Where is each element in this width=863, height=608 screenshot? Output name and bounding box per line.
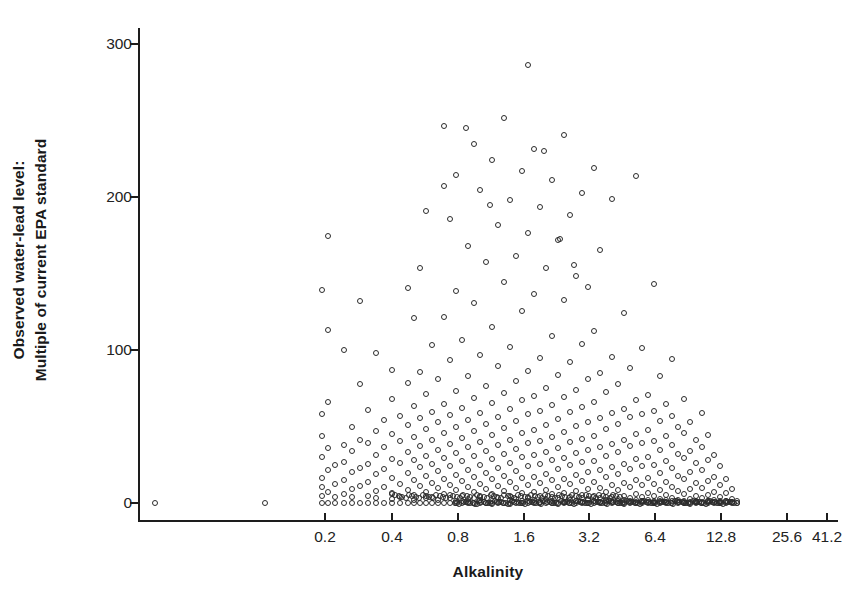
x-tick-label: 1.6	[513, 528, 535, 546]
y-tick-mark	[130, 43, 138, 45]
x-tick-label: 3.2	[578, 528, 600, 546]
x-tick-mark	[588, 513, 590, 521]
x-tick-mark	[826, 513, 828, 521]
x-tick-mark	[324, 513, 326, 521]
plot-area	[0, 0, 863, 608]
x-tick-label: 0.8	[447, 528, 469, 546]
x-tick-label: 0.2	[314, 528, 336, 546]
y-tick-mark	[130, 349, 138, 351]
y-tick-mark	[130, 196, 138, 198]
x-tick-mark	[457, 513, 459, 521]
scatter-plot-figure: Observed water-lead level: Multiple of c…	[0, 0, 863, 608]
x-axis-label: Alkalinity	[138, 563, 838, 581]
x-tick-mark	[654, 513, 656, 521]
x-axis-line	[138, 520, 838, 522]
x-tick-label: 6.4	[644, 528, 666, 546]
x-tick-mark	[391, 513, 393, 521]
x-tick-label: 0.4	[381, 528, 403, 546]
x-tick-label: 12.8	[706, 528, 736, 546]
x-tick-mark	[786, 513, 788, 521]
x-tick-mark	[720, 513, 722, 521]
y-tick-mark	[130, 502, 138, 504]
x-tick-mark	[523, 513, 525, 521]
x-tick-label: 25.6	[772, 528, 802, 546]
x-tick-label: 41.2	[812, 528, 842, 546]
y-axis-line	[138, 28, 140, 522]
